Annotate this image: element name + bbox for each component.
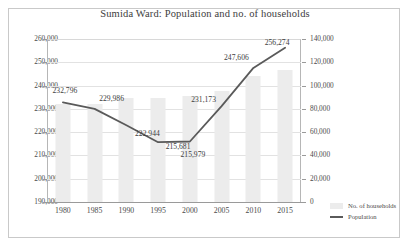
y-axis-right-tick: 120,000 xyxy=(310,57,360,66)
y-axis-right-tickmark xyxy=(302,39,306,40)
x-axis-tick: 1995 xyxy=(150,206,166,215)
x-axis-tick: 1980 xyxy=(55,206,71,215)
y-axis-right-tickmark xyxy=(302,62,306,63)
x-axis-tick: 2000 xyxy=(182,206,198,215)
data-label: 232,796 xyxy=(53,86,78,95)
y-axis-right-tick: 140,000 xyxy=(310,34,360,43)
legend-item-households: No. of households xyxy=(330,200,396,211)
population-line xyxy=(63,48,285,143)
legend-swatch-line-icon xyxy=(330,216,343,218)
x-axis-tick: 2015 xyxy=(277,206,293,215)
y-axis-right-tickmark xyxy=(302,86,306,87)
data-label: 222,944 xyxy=(135,129,160,138)
y-axis-right-tick: 80,000 xyxy=(310,104,360,113)
line-series-population xyxy=(47,39,301,202)
plot-area: 232,796229,986222,944215,681215,979231,1… xyxy=(47,39,301,202)
data-label: 231,173 xyxy=(191,95,216,104)
y-axis-right-tick: 100,000 xyxy=(310,81,360,90)
legend-swatch-bar-icon xyxy=(330,203,343,209)
data-label: 256,274 xyxy=(265,38,290,47)
y-axis-right-tick: 20,000 xyxy=(310,174,360,183)
y-axis-right-tick: 60,000 xyxy=(310,127,360,136)
data-label: 215,979 xyxy=(181,150,206,159)
x-axis-tick: 2010 xyxy=(246,206,262,215)
legend-item-population: Population xyxy=(330,211,396,222)
legend-label-households: No. of households xyxy=(348,202,396,209)
x-axis-tick: 1990 xyxy=(119,206,135,215)
y-axis-right-tickmark xyxy=(302,179,306,180)
y-axis-right-tickmark xyxy=(302,155,306,156)
x-axis-tick: 1985 xyxy=(87,206,103,215)
data-label: 247,606 xyxy=(224,53,249,62)
y-axis-right-tick: 40,000 xyxy=(310,150,360,159)
y-axis-right-tickmark xyxy=(302,132,306,133)
data-label: 229,986 xyxy=(99,94,124,103)
x-axis-line xyxy=(47,202,303,203)
y-axis-right-tickmark xyxy=(302,109,306,110)
legend-label-population: Population xyxy=(348,213,377,220)
chart-title: Sumida Ward: Population and no. of house… xyxy=(0,8,410,19)
x-axis-tick: 2005 xyxy=(214,206,230,215)
chart-legend: No. of households Population xyxy=(330,200,396,222)
